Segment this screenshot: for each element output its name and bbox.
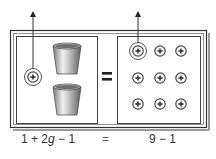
equation-left-minus: − 1 xyxy=(55,132,75,146)
equation-left-side: 1 + 2g − 1 xyxy=(21,132,75,146)
cup-icon-top xyxy=(53,43,81,74)
plus-tile-icon xyxy=(176,73,186,83)
plus-tile-icon xyxy=(133,99,143,109)
equation-variable: g xyxy=(48,132,55,146)
plus-tile-icon xyxy=(155,73,165,83)
equation-right-side: 9 − 1 xyxy=(149,132,176,146)
cup-icon-bottom xyxy=(53,84,81,115)
plus-tile-icon xyxy=(176,99,186,109)
plus-tile-icon xyxy=(133,73,143,83)
plus-tile-icon xyxy=(155,46,165,56)
plus-tile-icon xyxy=(176,46,186,56)
left-highlighted-plus-tile xyxy=(25,69,42,86)
equation-equals: = xyxy=(102,132,109,146)
equals-sign xyxy=(102,72,112,81)
equation-left-coeff: 1 + 2 xyxy=(21,132,48,146)
plus-tile-icon xyxy=(155,99,165,109)
right-highlighted-plus-tile xyxy=(130,43,147,60)
